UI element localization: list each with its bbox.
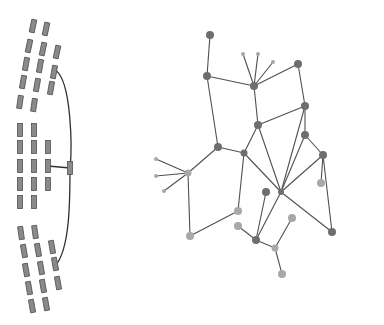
- graph-edge: [244, 125, 258, 153]
- rect-node: [18, 141, 23, 154]
- graph-edge: [244, 153, 281, 192]
- graph-edge: [275, 218, 292, 248]
- graph-node: [272, 245, 279, 252]
- graph-node: [234, 207, 242, 215]
- graph-node: [278, 270, 286, 278]
- rect-node: [25, 39, 33, 53]
- graph-edge: [321, 155, 323, 183]
- rect-node: [18, 226, 25, 240]
- rect-node: [19, 75, 26, 89]
- graph-node: [271, 60, 275, 64]
- graph-node: [317, 179, 325, 187]
- graph-node: [294, 60, 302, 68]
- graph-node: [186, 232, 194, 240]
- rect-node: [42, 297, 49, 311]
- graph-edge: [281, 135, 305, 192]
- rect-node: [36, 59, 43, 73]
- graph-node: [154, 157, 158, 161]
- rect-node: [46, 160, 51, 173]
- diagram-canvas: [0, 0, 384, 325]
- rect-node: [42, 22, 50, 36]
- graph-edge: [188, 173, 190, 236]
- graph-edge: [275, 248, 282, 274]
- graph-node: [234, 222, 242, 230]
- graph-node: [278, 189, 284, 195]
- graph-edge: [298, 64, 305, 106]
- graph-edge: [254, 64, 298, 86]
- graph-edge: [190, 211, 238, 236]
- rect-node: [32, 160, 37, 173]
- graph-edge: [207, 35, 210, 76]
- rect-node: [32, 225, 39, 239]
- graph-edge: [243, 54, 254, 86]
- graph-node: [206, 31, 214, 39]
- rect-node: [18, 160, 23, 173]
- graph-node: [252, 236, 260, 244]
- rect-node: [31, 98, 38, 112]
- graph-edge: [256, 192, 281, 240]
- graph-edge: [156, 159, 188, 173]
- rect-node: [46, 178, 51, 191]
- graph-edge: [256, 192, 266, 240]
- graph-node: [288, 214, 296, 222]
- graph-node: [301, 131, 309, 139]
- rectangle-cluster: [17, 19, 73, 313]
- rect-node: [33, 78, 40, 92]
- rect-node: [25, 281, 32, 295]
- rect-node: [18, 196, 23, 209]
- graph-node: [185, 170, 192, 177]
- graph-edge: [323, 155, 332, 232]
- graph-node: [301, 102, 309, 110]
- rect-node: [53, 45, 61, 59]
- graph-edge: [218, 147, 244, 153]
- graph-edge: [188, 147, 218, 173]
- rect-node: [39, 279, 46, 293]
- graph-edge: [254, 86, 258, 125]
- rect-nodes: [17, 19, 73, 313]
- graph-edge: [305, 135, 323, 155]
- graph-node: [319, 151, 327, 159]
- rect-node: [50, 65, 57, 79]
- rect-node: [51, 257, 58, 271]
- graph-nodes: [154, 31, 336, 278]
- graph-edge: [164, 173, 188, 191]
- graph-edge: [156, 173, 188, 176]
- graph-edge: [258, 125, 281, 192]
- rect-node: [22, 57, 29, 71]
- straight-links: [48, 166, 70, 168]
- rect-node: [34, 243, 41, 257]
- graph-node: [154, 174, 158, 178]
- node-link-graph: [154, 31, 336, 278]
- graph-node: [256, 52, 260, 56]
- graph-edge: [207, 76, 218, 147]
- rect-node: [47, 81, 54, 95]
- rect-node: [28, 299, 35, 313]
- rect-node: [29, 19, 37, 33]
- graph-edge: [281, 155, 323, 192]
- graph-node: [162, 189, 166, 193]
- rect-node: [20, 244, 27, 258]
- rect-node: [32, 196, 37, 209]
- graph-node: [250, 82, 258, 90]
- rect-node: [37, 261, 44, 275]
- graph-edge: [238, 153, 244, 211]
- rect-node: [48, 240, 55, 254]
- rect-node: [32, 141, 37, 154]
- rect-node: [17, 95, 24, 109]
- rect-node: [22, 263, 29, 277]
- rect-node: [32, 124, 37, 137]
- rect-node: [68, 162, 73, 175]
- graph-edge: [258, 106, 305, 125]
- rect-node: [46, 141, 51, 154]
- rect-node: [18, 178, 23, 191]
- graph-node: [254, 121, 262, 129]
- rect-node: [32, 178, 37, 191]
- graph-edge: [207, 76, 254, 86]
- graph-node: [203, 72, 211, 80]
- graph-node: [262, 188, 270, 196]
- rect-link: [48, 166, 70, 168]
- rect-node: [39, 42, 47, 56]
- rect-node: [18, 124, 23, 137]
- graph-node: [241, 150, 248, 157]
- graph-node: [214, 143, 222, 151]
